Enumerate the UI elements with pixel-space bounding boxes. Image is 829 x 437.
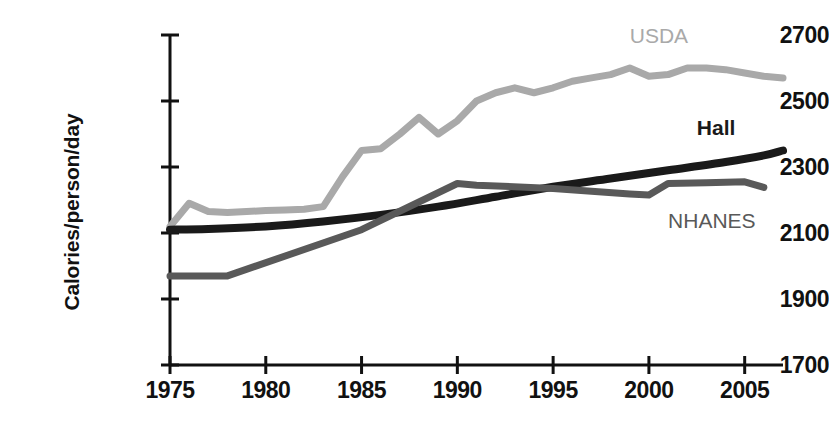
x-tick-label: 2000 — [609, 379, 689, 402]
x-tick-label: 1980 — [226, 379, 306, 402]
series-label-hall: Hall — [697, 117, 736, 138]
x-tick-label: 1990 — [417, 379, 497, 402]
y-tick-label: 1700 — [673, 354, 829, 377]
series-label-nhanes: NHANES — [668, 210, 756, 231]
y-tick-label: 2300 — [673, 156, 829, 179]
x-tick-label: 2005 — [705, 379, 785, 402]
x-tick-label: 1985 — [322, 379, 402, 402]
y-tick-label: 2500 — [673, 90, 829, 113]
series-label-usda: USDA — [630, 25, 688, 46]
chart-figure: Calories/person/day 17001900210023002500… — [0, 0, 829, 437]
x-tick-label: 1995 — [513, 379, 593, 402]
y-tick-label: 1900 — [673, 288, 829, 311]
y-tick-label: 2700 — [673, 24, 829, 47]
x-tick-label: 1975 — [130, 379, 210, 402]
